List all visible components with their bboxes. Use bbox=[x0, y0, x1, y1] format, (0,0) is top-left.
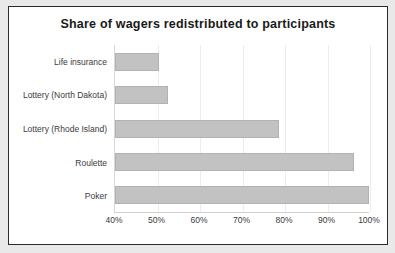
bar-row bbox=[115, 78, 369, 111]
plot-area bbox=[114, 45, 369, 213]
x-tick-label: 100% bbox=[358, 215, 380, 225]
x-tick-label: 60% bbox=[190, 215, 207, 225]
chart-frame: Share of wagers redistributed to partici… bbox=[8, 6, 388, 245]
category-label-lottery-rhode-island: Lottery (Rhode Island) bbox=[9, 112, 114, 146]
bar-row bbox=[115, 179, 369, 212]
bar-lottery-north-dakota bbox=[115, 86, 168, 104]
category-label-roulette: Roulette bbox=[9, 146, 114, 180]
gridline bbox=[370, 45, 371, 212]
x-tick-label: 90% bbox=[318, 215, 335, 225]
x-tick-label: 40% bbox=[105, 215, 122, 225]
bar-life-insurance bbox=[115, 53, 159, 71]
bar-row bbox=[115, 145, 369, 178]
category-label-poker: Poker bbox=[9, 179, 114, 213]
bar-series bbox=[115, 45, 369, 212]
plot-wrapper: Life insurance Lottery (North Dakota) Lo… bbox=[9, 45, 389, 245]
x-tick-label: 70% bbox=[233, 215, 250, 225]
bar-lottery-rhode-island bbox=[115, 120, 279, 138]
x-tick-label: 50% bbox=[148, 215, 165, 225]
x-tick-label: 80% bbox=[275, 215, 292, 225]
value-axis: 40%50%60%70%80%90%100% bbox=[114, 215, 369, 235]
category-label-lottery-north-dakota: Lottery (North Dakota) bbox=[9, 79, 114, 113]
bar-roulette bbox=[115, 153, 354, 171]
category-axis: Life insurance Lottery (North Dakota) Lo… bbox=[9, 45, 114, 213]
bar-poker bbox=[115, 186, 369, 204]
category-label-life-insurance: Life insurance bbox=[9, 45, 114, 79]
bar-row bbox=[115, 112, 369, 145]
bar-row bbox=[115, 45, 369, 78]
chart-title: Share of wagers redistributed to partici… bbox=[9, 17, 387, 31]
